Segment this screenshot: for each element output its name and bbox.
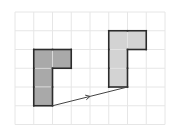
shape-cell (34, 87, 53, 106)
original-shape (34, 50, 72, 106)
shape-cell (109, 68, 128, 87)
shape-cell (34, 68, 53, 87)
shape-cell (109, 50, 128, 69)
shape-cell (128, 31, 147, 50)
translation-diagram (0, 0, 173, 125)
shape-cell (53, 50, 72, 69)
shape-cell (34, 50, 53, 69)
shape-cell (109, 31, 128, 50)
translated-shape (109, 31, 147, 87)
